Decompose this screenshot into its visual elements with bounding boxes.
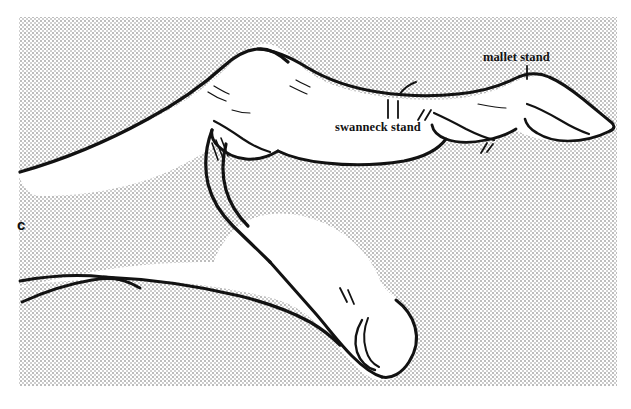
- figure-container: mallet stand swanneck stand c: [0, 0, 631, 409]
- annotation-label-swanneck-stand: swanneck stand: [335, 121, 421, 134]
- annotation-label-mallet-stand: mallet stand: [483, 51, 550, 64]
- figure-panel-letter: c: [17, 217, 25, 232]
